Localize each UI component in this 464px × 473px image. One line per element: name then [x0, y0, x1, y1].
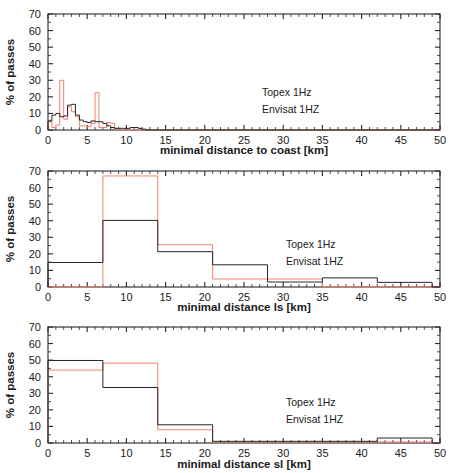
y-tick-label: 50: [29, 198, 41, 210]
y-tick-label: 30: [29, 387, 41, 399]
x-tick-label: 5: [84, 447, 90, 459]
x-tick-label: 40: [355, 447, 367, 459]
x-tick-label: 0: [45, 291, 51, 303]
x-tick-label: 0: [45, 447, 51, 459]
x-tick-label: 5: [84, 134, 90, 146]
chart-svg: 05101520253035404550010203040506070minim…: [0, 157, 464, 315]
x-tick-label: 40: [355, 134, 367, 146]
legend-label-topex: Topex 1Hz: [262, 86, 312, 98]
x-axis: 05101520253035404550: [45, 327, 446, 459]
y-axis-title: % of passes: [4, 352, 16, 418]
histogram-series: [48, 80, 440, 130]
figure-histogram-panels: 05101520253035404550010203040506070minim…: [0, 0, 464, 473]
y-tick-label: 0: [35, 124, 41, 136]
y-tick-label: 40: [29, 215, 41, 227]
y-tick-label: 60: [29, 338, 41, 350]
x-axis-title: minimal distance sl [km]: [177, 458, 311, 470]
y-tick-label: 20: [29, 404, 41, 416]
x-tick-label: 45: [395, 134, 407, 146]
legend-label-envisat: Envisat 1HZ: [262, 103, 320, 115]
y-tick-label: 0: [35, 281, 41, 293]
legend-label-envisat: Envisat 1HZ: [286, 413, 344, 425]
chart-panel-distance-to-coast: 05101520253035404550010203040506070minim…: [0, 0, 464, 158]
y-tick-label: 70: [29, 165, 41, 177]
x-tick-label: 50: [434, 447, 446, 459]
y-tick-label: 60: [29, 182, 41, 194]
x-tick-label: 0: [45, 134, 51, 146]
y-axis-title: % of passes: [4, 196, 16, 262]
x-axis-title: minimal distance ls [km]: [177, 301, 311, 313]
y-tick-label: 40: [29, 371, 41, 383]
x-tick-label: 50: [434, 291, 446, 303]
y-tick-label: 10: [29, 264, 41, 276]
x-tick-label: 10: [120, 291, 132, 303]
x-axis: 05101520253035404550: [45, 14, 446, 146]
y-tick-label: 30: [29, 74, 41, 86]
y-tick-label: 20: [29, 91, 41, 103]
x-tick-label: 40: [355, 291, 367, 303]
legend: Topex 1HzEnvisat 1HZ: [262, 86, 320, 115]
x-tick-label: 10: [120, 134, 132, 146]
x-axis: 05101520253035404550: [45, 171, 446, 303]
x-tick-label: 50: [434, 134, 446, 146]
histogram-series: [48, 176, 440, 287]
y-tick-label: 50: [29, 41, 41, 53]
y-axis: 010203040506070: [29, 165, 440, 293]
x-tick-label: 45: [395, 291, 407, 303]
x-axis-title: minimal distance to coast [km]: [160, 144, 328, 156]
y-axis-title: % of passes: [4, 39, 16, 105]
y-tick-label: 50: [29, 354, 41, 366]
plot-frame: [48, 14, 440, 130]
chart-svg: 05101520253035404550010203040506070minim…: [0, 0, 464, 158]
y-tick-label: 30: [29, 231, 41, 243]
plot-frame: [48, 171, 440, 287]
x-tick-label: 45: [395, 447, 407, 459]
chart-panel-distance-ls: 05101520253035404550010203040506070minim…: [0, 157, 464, 315]
histogram-series: [48, 220, 440, 287]
y-tick-label: 20: [29, 248, 41, 260]
x-tick-label: 15: [159, 291, 171, 303]
plot-frame: [48, 327, 440, 443]
legend-label-envisat: Envisat 1HZ: [286, 255, 344, 267]
legend: Topex 1HzEnvisat 1HZ: [286, 238, 344, 267]
y-tick-label: 70: [29, 8, 41, 20]
y-tick-label: 40: [29, 58, 41, 70]
histogram-series: [48, 360, 440, 443]
y-axis: 010203040506070: [29, 321, 440, 449]
x-tick-label: 5: [84, 291, 90, 303]
x-tick-label: 35: [316, 291, 328, 303]
chart-svg: 05101520253035404550010203040506070minim…: [0, 313, 464, 473]
x-tick-label: 35: [316, 447, 328, 459]
y-axis: 010203040506070: [29, 8, 440, 136]
x-tick-label: 10: [120, 447, 132, 459]
legend-label-topex: Topex 1Hz: [286, 396, 336, 408]
y-tick-label: 0: [35, 437, 41, 449]
x-tick-label: 15: [159, 447, 171, 459]
legend-label-topex: Topex 1Hz: [286, 238, 336, 250]
y-tick-label: 60: [29, 25, 41, 37]
y-tick-label: 10: [29, 420, 41, 432]
histogram-series: [48, 363, 440, 443]
y-tick-label: 70: [29, 321, 41, 333]
y-tick-label: 10: [29, 107, 41, 119]
legend: Topex 1HzEnvisat 1HZ: [286, 396, 344, 425]
chart-panel-distance-sl: 05101520253035404550010203040506070minim…: [0, 313, 464, 473]
